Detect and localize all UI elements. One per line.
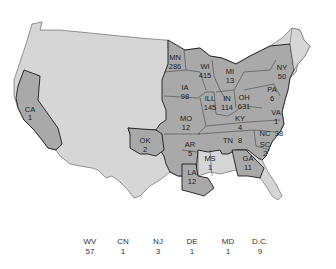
legend-item-dc: D.C. 9: [240, 237, 280, 257]
svg-text:LA: LA: [187, 168, 196, 177]
legend-abbr: D.C.: [240, 237, 280, 247]
legend-abbr: CN: [103, 237, 143, 247]
svg-text:38: 38: [275, 129, 283, 138]
legend-item-de: DE 1: [172, 237, 212, 257]
svg-text:AR: AR: [185, 140, 196, 149]
svg-text:MN: MN: [169, 53, 181, 62]
svg-text:12: 12: [182, 123, 190, 132]
svg-text:2: 2: [143, 145, 147, 154]
svg-text:KY: KY: [235, 114, 245, 123]
new-england: [290, 28, 310, 70]
svg-text:2: 2: [263, 149, 267, 158]
svg-text:1: 1: [208, 163, 212, 172]
svg-text:MI: MI: [226, 67, 234, 76]
svg-text:PA: PA: [267, 85, 276, 94]
svg-text:114: 114: [221, 103, 233, 112]
svg-text:IA: IA: [181, 83, 188, 92]
legend-abbr: DE: [172, 237, 212, 247]
us-map: CA 1 MN 286 WI 415 MI 13 IA 98 ILL 145 I…: [0, 0, 336, 230]
svg-text:50: 50: [278, 72, 286, 81]
svg-text:286: 286: [169, 62, 182, 71]
legend-item-cn: CN 1: [103, 237, 143, 257]
svg-text:ILL: ILL: [205, 94, 215, 103]
svg-text:OH: OH: [238, 93, 249, 102]
svg-text:11: 11: [244, 163, 252, 172]
svg-text:WI: WI: [200, 62, 209, 71]
legend-value: 1: [172, 247, 212, 257]
svg-text:1: 1: [28, 113, 32, 122]
svg-text:IN: IN: [223, 94, 231, 103]
svg-text:13: 13: [226, 76, 234, 85]
svg-text:4: 4: [238, 123, 242, 132]
small-states-legend: WV 57 CN 1 NJ 3 DE 1 MD 1 D.C. 9: [0, 232, 336, 269]
svg-text:NC: NC: [260, 129, 271, 138]
legend-value: 9: [240, 247, 280, 257]
svg-text:OK: OK: [140, 136, 151, 145]
svg-text:1: 1: [274, 117, 278, 126]
legend-value: 1: [103, 247, 143, 257]
svg-text:NY: NY: [277, 63, 287, 72]
svg-text:631: 631: [238, 102, 251, 111]
svg-text:98: 98: [181, 92, 189, 101]
svg-text:VA: VA: [271, 108, 280, 117]
svg-text:415: 415: [199, 71, 212, 80]
svg-text:6: 6: [270, 94, 274, 103]
svg-text:145: 145: [204, 103, 217, 112]
svg-text:8: 8: [238, 136, 242, 145]
svg-text:SC: SC: [260, 140, 271, 149]
svg-text:MS: MS: [204, 154, 215, 163]
svg-text:TN: TN: [223, 136, 233, 145]
svg-text:12: 12: [188, 177, 196, 186]
svg-text:GA: GA: [243, 154, 254, 163]
svg-text:5: 5: [188, 149, 192, 158]
svg-text:MO: MO: [180, 114, 192, 123]
